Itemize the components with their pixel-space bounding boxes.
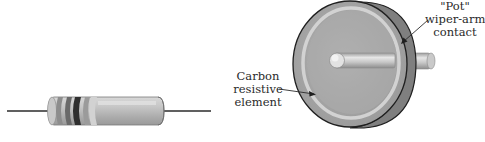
label-carbon-resistive-element: Carbon resistive element [226, 70, 290, 109]
front-shaft-tip-highlight [332, 55, 339, 62]
label-pot-wiper-arm-contact: "Pot" wiper-arm contact [425, 0, 485, 39]
potentiometer [293, 1, 435, 128]
label-line: element [226, 96, 290, 109]
resistor-highlight [98, 101, 156, 105]
resistor-end-cap [48, 97, 57, 125]
label-line: contact [425, 26, 485, 39]
fixed-resistor [7, 97, 211, 125]
rear-shaft-tip [427, 53, 435, 69]
